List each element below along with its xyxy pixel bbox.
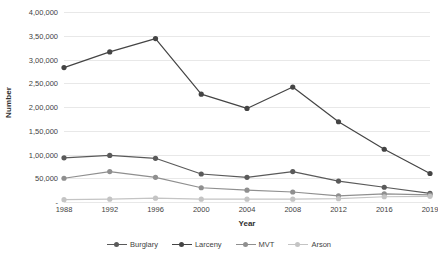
x-axis-tick-label: 2008	[284, 205, 301, 214]
y-axis-tick-label: 2,50,000	[29, 79, 58, 88]
legend-swatch-icon	[107, 241, 127, 249]
y-axis-tick-label: 3,50,000	[29, 31, 58, 40]
series-layer	[64, 12, 430, 202]
y-axis-tick-label: 1,00,000	[29, 150, 58, 159]
legend-item-larceny[interactable]: Larceny	[172, 240, 222, 249]
legend-swatch-icon	[172, 241, 192, 249]
data-point	[244, 175, 249, 180]
legend-label: Larceny	[195, 240, 222, 249]
data-point	[336, 196, 341, 201]
data-point	[61, 155, 66, 160]
y-axis-tick-label: 2,00,000	[29, 103, 58, 112]
legend-swatch-icon	[236, 241, 256, 249]
y-axis-tick-labels: 4,00,0003,50,0003,00,0002,50,0002,00,000…	[16, 12, 62, 202]
data-point	[427, 171, 432, 176]
x-axis-tick-label: 1996	[147, 205, 164, 214]
data-point	[107, 197, 112, 202]
data-point	[61, 197, 66, 202]
data-point	[199, 197, 204, 202]
x-axis-tick-label: 2016	[376, 205, 393, 214]
data-point	[244, 197, 249, 202]
data-point	[199, 185, 204, 190]
x-axis-tick-label: 2004	[239, 205, 256, 214]
data-point	[290, 189, 295, 194]
legend-item-mvt[interactable]: MVT	[236, 240, 275, 249]
data-point	[153, 175, 158, 180]
data-point	[427, 194, 432, 199]
legend-label: Burglary	[130, 240, 158, 249]
legend-label: Arson	[311, 240, 331, 249]
series-arson	[61, 194, 432, 203]
y-axis-tick-label: 4,00,000	[29, 8, 58, 17]
data-point	[61, 176, 66, 181]
y-axis-tick-label: 50,000	[35, 174, 58, 183]
x-axis-title: Year	[64, 219, 430, 228]
data-point	[107, 49, 112, 54]
data-point	[336, 119, 341, 124]
x-axis-tick-label: 2012	[330, 205, 347, 214]
data-point	[153, 36, 158, 41]
x-axis-tick-label: 2000	[193, 205, 210, 214]
series-mvt	[61, 169, 432, 198]
data-point	[153, 156, 158, 161]
plot-area	[64, 12, 430, 202]
series-larceny	[61, 36, 432, 176]
legend-swatch-icon	[288, 241, 308, 249]
y-axis-title: Number	[0, 0, 16, 205]
y-axis-title-text: Number	[4, 87, 13, 118]
data-point	[61, 65, 66, 70]
data-point	[382, 185, 387, 190]
data-point	[244, 188, 249, 193]
data-point	[153, 196, 158, 201]
data-point	[290, 197, 295, 202]
data-point	[199, 92, 204, 97]
data-point	[199, 171, 204, 176]
data-point	[336, 179, 341, 184]
data-point	[107, 169, 112, 174]
legend-item-arson[interactable]: Arson	[288, 240, 331, 249]
x-axis-tick-label: 1988	[56, 205, 73, 214]
data-point	[290, 84, 295, 89]
legend-label: MVT	[259, 240, 275, 249]
y-axis-tick-label: 1,50,000	[29, 126, 58, 135]
line-chart: Number 4,00,0003,50,0003,00,0002,50,0002…	[0, 0, 438, 263]
x-axis-tick-label: 1992	[101, 205, 118, 214]
data-point	[290, 169, 295, 174]
x-axis-tick-label: 2019	[422, 205, 438, 214]
x-axis-tick-labels: 198819921996200020042008201220162019	[64, 205, 430, 219]
legend-item-burglary[interactable]: Burglary	[107, 240, 158, 249]
data-point	[244, 106, 249, 111]
data-point	[382, 147, 387, 152]
data-point	[382, 194, 387, 199]
gridline	[64, 202, 430, 203]
chart-legend: BurglaryLarcenyMVTArson	[0, 240, 438, 249]
data-point	[107, 153, 112, 158]
y-axis-tick-label: 3,00,000	[29, 55, 58, 64]
